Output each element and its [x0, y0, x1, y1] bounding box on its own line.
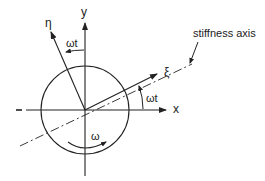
angle-top-label: ωt: [66, 37, 78, 49]
stiffness-axis-label: stiffness axis: [193, 27, 256, 39]
rotation-arrow: [68, 142, 106, 148]
stiffness-axis-pointer: [190, 42, 198, 63]
eta-axis-label: η: [45, 16, 52, 30]
rotation-label: ω: [91, 130, 100, 142]
x-axis-label: x: [173, 102, 179, 116]
xi-axis-label: ξ: [164, 65, 170, 79]
rotor-diagram: y x η ξ ωt ωt ω stiffness axis: [0, 0, 265, 181]
angle-arc-top: [66, 50, 84, 52]
angle-right-label: ωt: [146, 92, 158, 104]
y-axis-label: y: [81, 5, 87, 19]
